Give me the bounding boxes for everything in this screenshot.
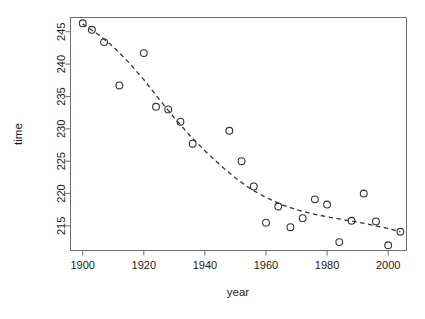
y-tick-label: 240 bbox=[56, 55, 68, 73]
y-tick-label: 235 bbox=[56, 87, 68, 105]
x-tick-label: 1960 bbox=[254, 259, 278, 271]
y-tick-label: 230 bbox=[56, 120, 68, 138]
y-tick-label: 245 bbox=[56, 23, 68, 41]
x-tick-label: 1900 bbox=[70, 259, 94, 271]
x-axis-title: year bbox=[227, 286, 250, 298]
x-tick-label: 1920 bbox=[132, 259, 156, 271]
x-tick-label: 1980 bbox=[315, 259, 339, 271]
x-tick-label: 2000 bbox=[376, 259, 400, 271]
y-tick-label: 225 bbox=[56, 152, 68, 170]
scatter-plot-figure: 215220225230235240245 190019201940196019… bbox=[0, 0, 425, 319]
y-axis-title: time bbox=[12, 123, 24, 145]
y-tick-label: 215 bbox=[56, 217, 68, 235]
y-tick-label: 220 bbox=[56, 184, 68, 202]
chart-canvas: 215220225230235240245 190019201940196019… bbox=[0, 0, 425, 319]
x-tick-label: 1940 bbox=[193, 259, 217, 271]
